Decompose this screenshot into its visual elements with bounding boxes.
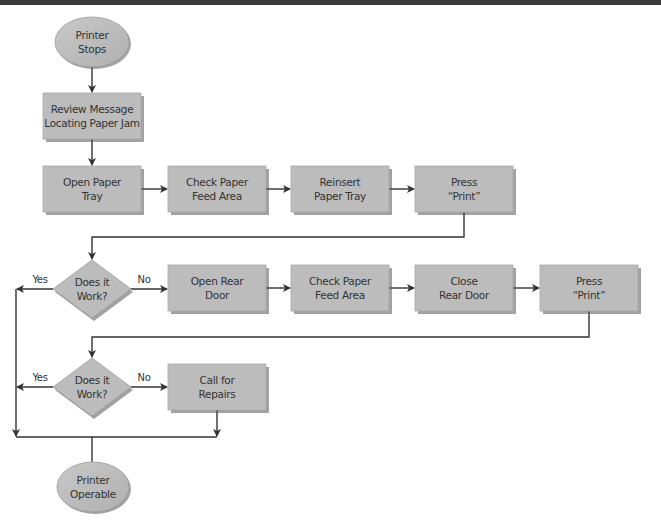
flow-node-check-feed-2: Check PaperFeed Area: [291, 265, 392, 314]
flow-node-open-rear: Open RearDoor: [168, 265, 269, 314]
node-label-line: Does it: [75, 374, 110, 386]
decision-diamond: [53, 358, 131, 416]
decision-diamond: [53, 260, 131, 318]
connector-press-print-decision-1: [92, 212, 464, 259]
flow-node-call-repairs: Call forRepairs: [168, 364, 269, 413]
node-label-line: Open Rear: [191, 275, 245, 287]
node-label-line: Check Paper: [186, 176, 249, 188]
flow-node-close-rear: CloseRear Door: [415, 265, 516, 314]
flow-node-press-print-2: Press“Print”: [540, 265, 641, 314]
nodes-layer: PrinterStopsReview MessageLocating Paper…: [43, 17, 641, 514]
process-box: [415, 166, 513, 212]
connector-press-print-decision-2: [92, 311, 589, 357]
flow-node-review: Review MessageLocating Paper Jam: [43, 93, 144, 142]
node-label-line: Reinsert: [320, 176, 361, 188]
flow-node-reinsert-tray: ReinsertPaper Tray: [291, 166, 392, 215]
flow-node-press-print-1: Press“Print”: [415, 166, 516, 215]
node-label-line: Operable: [70, 488, 116, 500]
node-label-line: Call for: [200, 374, 236, 386]
process-box: [168, 166, 266, 212]
edge-label-no: No: [138, 372, 151, 383]
node-label-line: Stops: [78, 43, 106, 55]
flow-node-decision-1: Does itWork?: [53, 260, 133, 321]
node-label-line: Repairs: [199, 388, 236, 400]
node-label-line: Work?: [77, 290, 108, 302]
node-label-line: Printer: [76, 29, 110, 41]
node-label-line: Tray: [81, 190, 103, 202]
node-label-line: Open Paper: [63, 176, 122, 188]
flowchart: PrinterStopsReview MessageLocating Paper…: [0, 0, 661, 522]
node-label-line: Press: [576, 275, 602, 287]
node-label-line: Locating Paper Jam: [44, 117, 139, 129]
edge-label-yes: Yes: [31, 274, 47, 285]
edge-label-no: No: [138, 274, 151, 285]
edge-label-yes: Yes: [31, 372, 47, 383]
process-box: [43, 166, 141, 212]
flow-node-check-feed-1: Check PaperFeed Area: [168, 166, 269, 215]
flow-node-open-tray: Open PaperTray: [43, 166, 144, 215]
node-label-line: Feed Area: [192, 190, 242, 202]
node-label-line: “Print”: [448, 190, 481, 202]
node-label-line: Press: [451, 176, 477, 188]
node-label-line: Paper Tray: [314, 190, 366, 202]
node-label-line: Review Message: [51, 103, 134, 115]
node-label-line: Door: [205, 289, 230, 301]
node-label-line: Rear Door: [439, 289, 490, 301]
process-box: [43, 93, 141, 139]
node-label-line: Printer: [77, 474, 111, 486]
terminal-oval: [57, 462, 129, 512]
process-box: [291, 166, 389, 212]
node-label-line: Does it: [75, 276, 110, 288]
node-label-line: Feed Area: [315, 289, 365, 301]
process-box: [168, 265, 266, 311]
node-label-line: Check Paper: [309, 275, 372, 287]
process-box: [415, 265, 513, 311]
process-box: [168, 364, 266, 410]
terminal-oval: [55, 17, 129, 67]
flow-node-decision-2: Does itWork?: [53, 358, 133, 419]
process-box: [291, 265, 389, 311]
flow-node-start: PrinterStops: [55, 17, 131, 69]
process-box: [540, 265, 638, 311]
flow-node-end: PrinterOperable: [57, 462, 131, 514]
node-label-line: “Print”: [573, 289, 606, 301]
node-label-line: Work?: [77, 388, 108, 400]
node-label-line: Close: [450, 275, 477, 287]
